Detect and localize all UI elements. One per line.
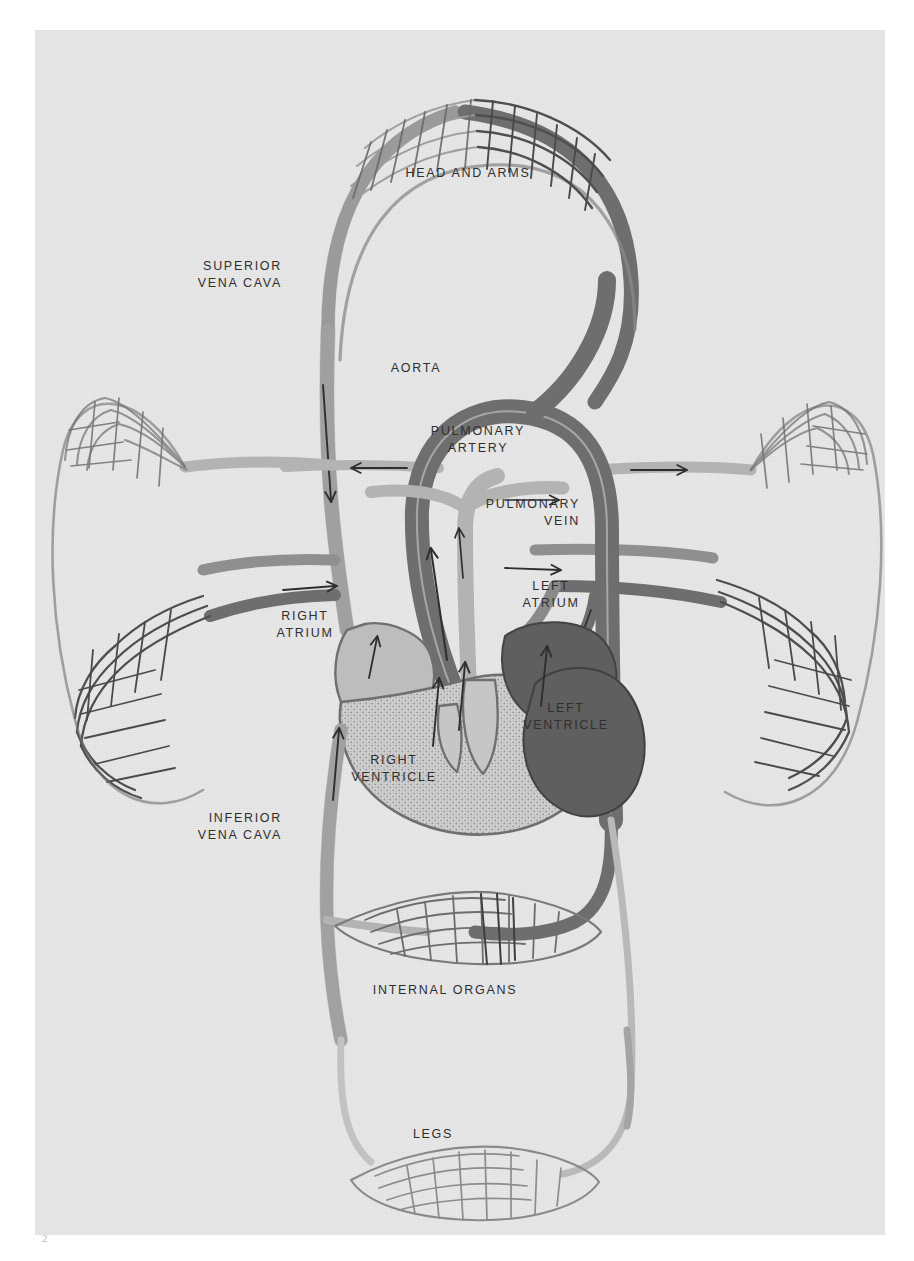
label-right-atrium: RIGHT ATRIUM [249, 608, 361, 642]
capillary-bed-left-lung [53, 398, 210, 803]
label-pulmonary-artery: PULMONARY ARTERY [404, 423, 552, 457]
capillary-bed-right-lung [717, 402, 881, 805]
page-number: 2 [42, 1232, 48, 1244]
label-pulmonary-vein: PULMONARY VEIN [434, 496, 580, 530]
figure-page: HEAD AND ARMS SUPERIOR VENA CAVA AORTA P… [0, 0, 914, 1261]
label-aorta: AORTA [368, 360, 464, 377]
label-superior-vena-cava: SUPERIOR VENA CAVA [150, 258, 282, 292]
arrow-right-pulmonary-out [505, 568, 559, 570]
label-internal-organs: INTERNAL ORGANS [341, 982, 549, 999]
label-legs: LEGS [388, 1126, 478, 1143]
label-right-ventricle: RIGHT VENTRICLE [333, 752, 455, 786]
circulatory-system-illustration [35, 30, 885, 1235]
label-inferior-vena-cava: INFERIOR VENA CAVA [150, 810, 282, 844]
capillary-bed-legs [351, 1147, 599, 1221]
label-left-ventricle: LEFT VENTRICLE [512, 700, 620, 734]
label-left-atrium: LEFT ATRIUM [508, 578, 594, 612]
label-head-and-arms: HEAD AND ARMS [368, 165, 568, 182]
